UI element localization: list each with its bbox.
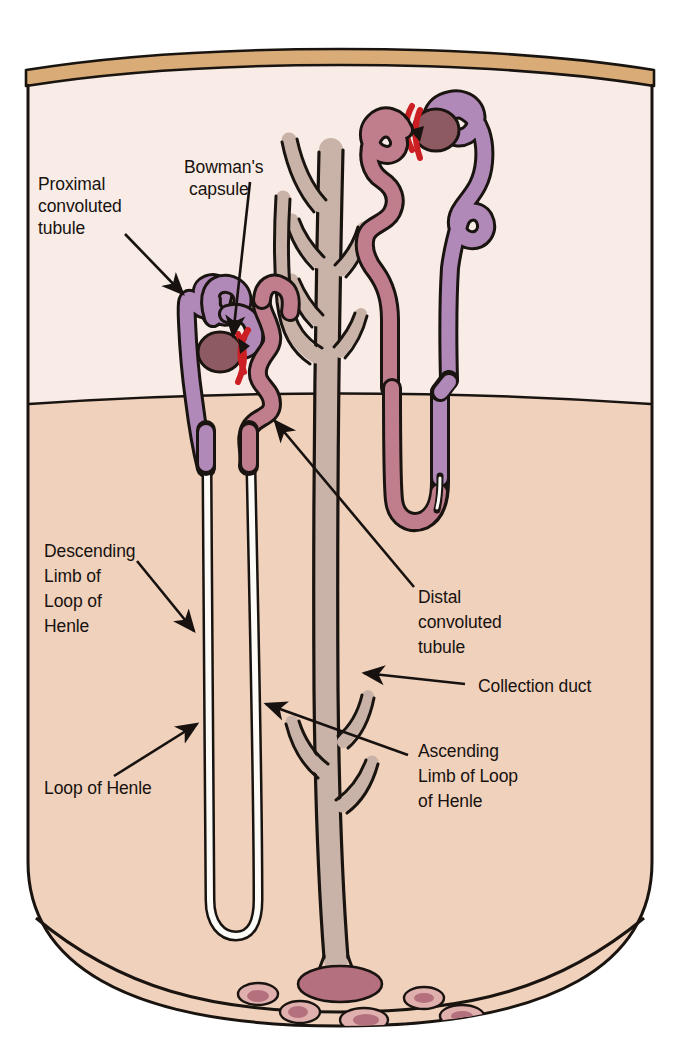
label-ascending-line-2: Limb of Loop (418, 766, 518, 786)
nephron-diagram-canvas: Proximal convoluted tubule Bowman's caps… (0, 0, 679, 1056)
right-descending-limb-fill (441, 382, 449, 392)
label-descending-line-3: Loop of (44, 591, 102, 611)
label-ascending-line-3: of Henle (418, 791, 482, 811)
label-pct-line-3: tubule (38, 218, 85, 238)
papilla-vessel-3-core (353, 1014, 379, 1026)
label-collection-duct: Collection duct (478, 676, 592, 696)
label-pct-line-1: Proximal (38, 174, 105, 194)
label-loop-of-henle-line-1: Loop of Henle (44, 778, 152, 798)
papilla-vessel-2-core (288, 1006, 308, 1018)
label-collection-duct-line-1: Collection duct (478, 676, 592, 696)
right-descending-limb (440, 380, 449, 392)
collecting-duct-trunk (326, 150, 336, 960)
label-loop-of-henle: Loop of Henle (44, 778, 152, 798)
papilla-central-vessel (298, 966, 382, 1002)
papilla-vessel-1-core (247, 990, 269, 1002)
label-ascending-line-1: Ascending (418, 741, 499, 761)
label-descending-line-4: Henle (44, 616, 89, 636)
label-bowmans-line-2: capsule (189, 179, 249, 199)
label-bowmans-line-1: Bowman's (184, 157, 264, 177)
nephron-diagram-figure: Proximal convoluted tubule Bowman's caps… (0, 0, 679, 1056)
label-dct-line-2: convoluted (418, 612, 502, 632)
label-descending-line-2: Limb of (44, 566, 101, 586)
left-glomerulus (198, 332, 242, 372)
label-descending-line-1: Descending (44, 541, 135, 561)
papilla-vessel-4-core (414, 993, 434, 1003)
label-dct-line-3: tubule (418, 637, 465, 657)
label-pct-line-2: convoluted (38, 196, 122, 216)
label-dct-line-1: Distal (418, 587, 461, 607)
